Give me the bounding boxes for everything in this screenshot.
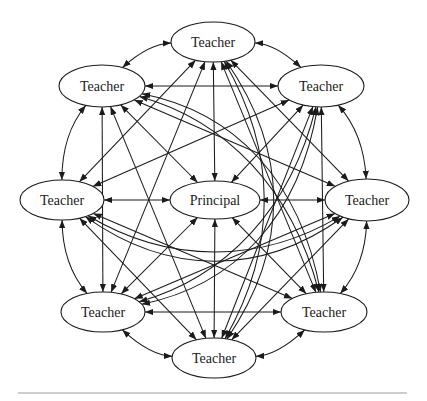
node-t0: Teacher [171,22,255,62]
edge-arrow [340,221,366,294]
edge-arrow [88,216,340,252]
node-t5: Teacher [61,292,145,332]
edge-arrow [231,105,303,182]
edge-arrow [62,106,86,181]
node-label: Teacher [80,79,124,94]
edge-arrow [122,330,172,356]
edge-arrow [134,214,335,299]
node-t7: Teacher [59,65,145,107]
edge-arrow [121,218,197,294]
node-label: Teacher [302,305,346,320]
edge-arrow [214,219,215,338]
edge-arrow [62,220,87,294]
node-label: Principal [190,193,241,208]
node-t1: Teacher [278,65,364,107]
network-svg: PrincipalTeacherTeacherTeacherTeacherTea… [0,0,427,401]
node-t4: Teacher [172,338,256,378]
node-principal: Principal [170,181,260,219]
node-label: Teacher [345,193,389,208]
edge-arrow [255,43,301,67]
edge-arrow [338,105,366,179]
figure-canvas: PrincipalTeacherTeacherTeacherTeacherTea… [0,0,427,401]
node-label: Teacher [81,305,125,320]
edge-arrow [256,330,305,356]
node-label: Teacher [40,193,84,208]
edge-arrow [121,105,198,183]
node-label: Teacher [299,79,343,94]
node-label: Teacher [191,35,235,50]
node-t3: Teacher [281,292,367,332]
node-label: Teacher [192,351,236,366]
edge-arrow [123,43,172,67]
network-diagram: PrincipalTeacherTeacherTeacherTeacherTea… [0,0,427,401]
node-t6: Teacher [20,180,104,220]
node-t2: Teacher [325,179,409,221]
